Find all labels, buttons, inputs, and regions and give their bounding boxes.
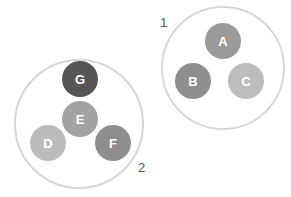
node-e: E (62, 101, 98, 137)
node-label: G (75, 72, 85, 87)
node-a: A (205, 23, 241, 59)
node-label: F (109, 136, 117, 151)
group-number-label: 2 (138, 160, 145, 175)
venn-groups-diagram: 1ABC2GEDF (0, 0, 291, 197)
node-label: E (76, 112, 85, 127)
node-label: B (188, 74, 197, 89)
group-1: 1ABC (160, 7, 284, 129)
node-b: B (175, 63, 211, 99)
node-label: D (43, 136, 52, 151)
node-g: G (62, 61, 98, 97)
node-d: D (30, 125, 66, 161)
node-c: C (228, 63, 264, 99)
group-number-label: 1 (160, 15, 167, 30)
node-f: F (95, 125, 131, 161)
node-label: C (241, 74, 251, 89)
group-2: 2GEDF (15, 60, 145, 188)
node-label: A (218, 34, 228, 49)
